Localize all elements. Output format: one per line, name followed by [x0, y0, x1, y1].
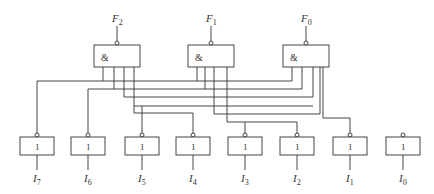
inversion-bubble-icon	[209, 41, 213, 45]
input-label-i4: I4	[188, 172, 197, 187]
not-symbol-i6: 1	[86, 142, 91, 152]
and-symbol-f2: &	[101, 52, 109, 63]
output-label-f2: F2	[111, 12, 123, 27]
input-label-i2: I2	[292, 172, 301, 187]
not-symbol-i4: 1	[191, 142, 196, 152]
input-label-i7: I7	[32, 172, 41, 187]
encoder-logic-diagram: & & & 1 1 1 1 1 1 1 1 F2 F1 F0 I7 I6 I5 …	[0, 0, 434, 194]
not-symbol-i7: 1	[35, 142, 40, 152]
input-label-i3: I3	[240, 172, 249, 187]
input-label-i5: I5	[137, 172, 146, 187]
output-label-f1: F1	[205, 12, 217, 27]
input-label-i6: I6	[83, 172, 92, 187]
inversion-bubble-icon	[115, 41, 119, 45]
input-label-i0: I0	[398, 172, 407, 187]
and-symbol-f0: &	[290, 52, 298, 63]
and-symbol-f1: &	[195, 52, 203, 63]
input-label-i1: I1	[345, 172, 354, 187]
inversion-bubble-icon	[304, 41, 308, 45]
not-symbol-i3: 1	[243, 142, 248, 152]
not-symbol-i0: 1	[401, 142, 406, 152]
not-symbol-i5: 1	[140, 142, 145, 152]
wiring	[37, 67, 350, 135]
output-label-f0: F0	[300, 12, 312, 27]
not-symbol-i1: 1	[348, 142, 353, 152]
not-symbol-i2: 1	[295, 142, 300, 152]
